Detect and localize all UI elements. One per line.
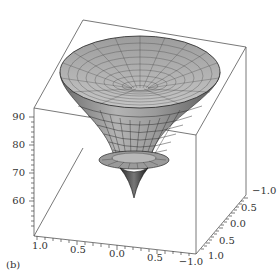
- y-tick-0: 0.0: [230, 218, 246, 229]
- y-tick-neg-0-5: 0.5: [241, 202, 257, 213]
- z-tick-80: 80: [12, 139, 25, 150]
- surface-plot: 90 80 70 60 1.0 0.5 0.0 0.5 −1.0: [0, 0, 280, 280]
- z-tick-90: 90: [12, 111, 25, 122]
- x-tick-0: 0.0: [109, 248, 125, 259]
- panel-label: (b): [6, 259, 20, 270]
- x-tick-0-5: 0.5: [70, 244, 86, 255]
- y-tick-0-5: 0.5: [219, 235, 235, 246]
- y-tick-1: 1.0: [208, 250, 224, 261]
- x-tick-neg-0-5: 0.5: [147, 252, 163, 263]
- x-tick-1: 1.0: [32, 240, 48, 251]
- z-axis: [29, 117, 34, 226]
- z-tick-70: 70: [12, 167, 25, 178]
- y-tick-neg-1: −1.0: [252, 185, 276, 196]
- z-tick-60: 60: [12, 195, 25, 206]
- x-tick-neg-1: −1.0: [179, 256, 203, 267]
